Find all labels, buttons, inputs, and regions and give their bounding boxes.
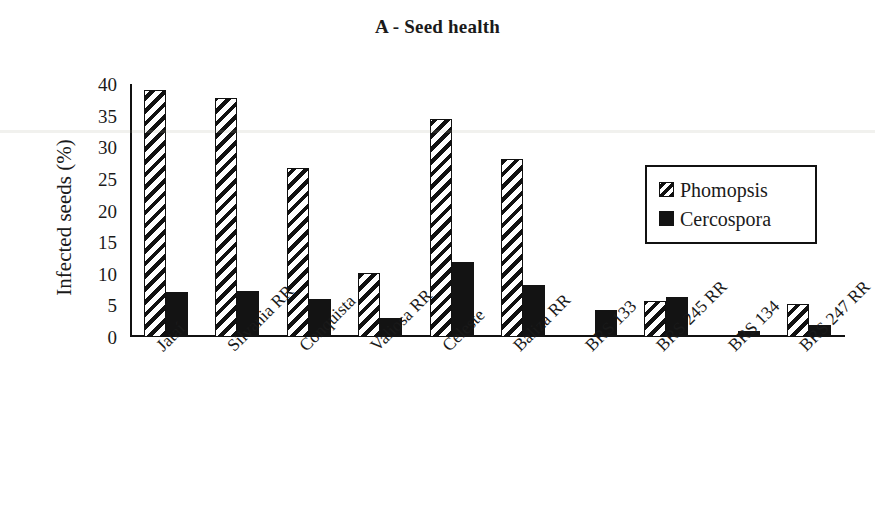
legend-swatch-cercospora [659,211,674,226]
bar-phomopsis-5 [501,159,523,337]
legend-label-cercospora: Cercospora [680,209,771,229]
y-tick-label: 25 [98,169,117,188]
bar-phomopsis-1 [215,98,237,337]
y-tick-label: 20 [98,201,117,220]
bar-phomopsis-3 [358,273,380,338]
chart-title: A - Seed health [0,16,875,38]
legend-entry-cercospora: Cercospora [659,204,805,233]
legend-label-phomopsis: Phomopsis [680,180,768,200]
y-tick-label: 15 [98,233,117,252]
chart-legend: Phomopsis Cercospora [645,165,817,244]
y-tick-label: 30 [98,138,117,157]
bar-phomopsis-0 [144,90,166,337]
legend-entry-phomopsis: Phomopsis [659,175,805,204]
y-tick-label: 0 [108,328,118,347]
y-tick-label: 35 [98,106,117,125]
bar-phomopsis-2 [287,168,309,338]
legend-swatch-phomopsis [659,182,674,197]
figure-seed-health: A - Seed health Infected seeds (%) 05101… [0,0,875,515]
bar-phomopsis-4 [430,119,452,337]
y-tick-label: 5 [108,296,118,315]
y-tick-label: 40 [98,75,117,94]
y-tick-label: 10 [98,264,117,283]
y-axis-title: Infected seeds (%) [52,88,77,348]
x-axis-category-labels: JataíSilvania RRConquistaValiosa RRCeles… [130,341,845,491]
